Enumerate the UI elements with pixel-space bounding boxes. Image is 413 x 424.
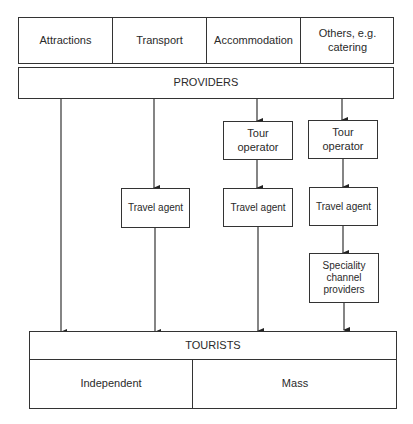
tour-operator-box: Tour operator: [223, 121, 293, 160]
segment-mass: Mass: [192, 360, 397, 408]
travel-agent-box: Travel agent: [121, 188, 190, 228]
tour-operator-label: Tour operator: [323, 126, 364, 152]
tour-operator-box: Tour operator: [308, 120, 378, 159]
travel-agent-box: Travel agent: [223, 188, 293, 227]
tourist-segments-row: Independent Mass: [29, 359, 397, 409]
tour-operator-label: Tour operator: [238, 127, 279, 153]
travel-agent-box: Travel agent: [309, 187, 378, 226]
speciality-channel-providers-box: Speciality channel providers: [309, 253, 379, 303]
travel-agent-label: Travel agent: [128, 202, 183, 214]
segment-independent: Independent: [30, 360, 192, 408]
travel-agent-label: Travel agent: [230, 202, 285, 214]
segment-label: Mass: [282, 377, 308, 390]
speciality-label: Speciality channel providers: [323, 260, 366, 296]
travel-agent-label: Travel agent: [316, 201, 371, 213]
tourists-label: TOURISTS: [185, 339, 240, 352]
tourists-box: TOURISTS: [29, 331, 397, 360]
segment-label: Independent: [80, 377, 141, 390]
